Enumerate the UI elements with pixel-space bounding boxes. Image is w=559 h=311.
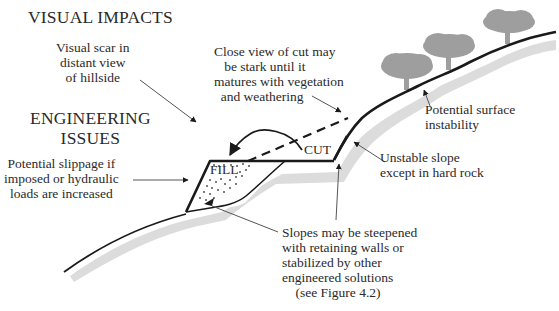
tree-icon bbox=[381, 53, 433, 90]
label-close-view: Close view of cut may be stark until it … bbox=[214, 44, 344, 104]
heading-visual-impacts: VISUAL IMPACTS bbox=[28, 7, 173, 27]
label-visual-scar: Visual scar in distant view of hillside bbox=[56, 40, 129, 85]
heading-engineering-issues: ENGINEERING ISSUES bbox=[30, 108, 151, 148]
label-slopes-steepened: Slopes may be steepened with retaining w… bbox=[282, 225, 417, 300]
original-ground-dashed-line bbox=[248, 118, 348, 161]
label-unstable-slope: Unstable slope except in hard rock bbox=[380, 150, 484, 180]
label-potential-surface: Potential surface instability bbox=[425, 102, 515, 132]
label-potential-slippage: Potential slippage if imposed or hydraul… bbox=[4, 156, 119, 201]
cut-tag: CUT bbox=[304, 143, 331, 157]
fill-tag: FILL bbox=[210, 163, 239, 177]
